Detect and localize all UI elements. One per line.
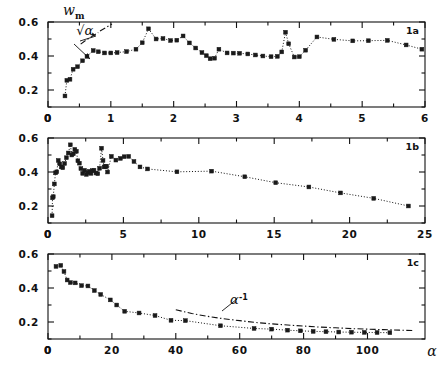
reference-guide-line — [176, 310, 412, 331]
data-point — [200, 51, 204, 55]
x-tick-label: 5 — [119, 228, 127, 240]
data-point — [175, 38, 179, 42]
data-point — [315, 35, 319, 39]
data-point — [275, 54, 279, 58]
data-point — [86, 284, 90, 288]
data-point — [194, 46, 198, 50]
origin-label: 0 — [44, 344, 52, 356]
data-point — [420, 47, 424, 51]
data-point — [367, 39, 371, 43]
data-point — [50, 214, 54, 218]
data-point — [270, 327, 274, 331]
data-point — [68, 77, 72, 81]
x-tick-label: 20 — [342, 228, 358, 240]
data-point — [127, 154, 131, 158]
data-point — [105, 164, 109, 168]
x-tick-label: 15 — [266, 228, 282, 240]
data-point — [208, 57, 212, 61]
data-point — [161, 37, 165, 41]
x-axis-title: α — [427, 343, 437, 359]
panel-1c: 0204060801000.20.40.61cα-1 — [19, 248, 425, 356]
data-point — [71, 67, 75, 71]
data-point — [337, 330, 341, 334]
data-point — [169, 318, 173, 322]
data-point — [217, 47, 221, 51]
figure-container: 01234560.20.40.61a√α005101520250.20.40.6… — [0, 0, 443, 371]
data-line — [56, 265, 390, 332]
data-point — [106, 170, 110, 174]
data-point — [154, 37, 158, 41]
data-point — [286, 328, 290, 332]
data-point — [304, 48, 308, 52]
data-point — [324, 330, 328, 334]
data-point — [274, 181, 278, 185]
data-point — [92, 289, 96, 293]
data-point — [91, 49, 95, 53]
data-point — [362, 330, 366, 334]
data-point — [187, 41, 191, 45]
y-tick-label: 0.4 — [19, 282, 39, 294]
data-point — [246, 52, 250, 56]
data-point — [109, 51, 113, 55]
data-point — [225, 51, 229, 55]
data-point — [280, 50, 284, 54]
data-point — [68, 143, 72, 147]
y-tick-label: 0.2 — [19, 316, 39, 328]
y-tick-label: 0.4 — [19, 166, 39, 178]
panel-label-1a: 1a — [406, 25, 419, 36]
panel-label-1b: 1b — [406, 141, 420, 152]
data-point — [183, 319, 187, 323]
origin-label: 0 — [44, 112, 52, 124]
annotation-label: √α — [76, 23, 93, 38]
y-tick-label: 0.6 — [19, 16, 39, 28]
origin-label: 0 — [44, 228, 52, 240]
data-point — [351, 39, 355, 43]
data-point — [169, 39, 173, 43]
multi-panel-plot: 01234560.20.40.61a√α005101520250.20.40.6… — [0, 0, 443, 371]
data-point — [307, 185, 311, 189]
data-point — [299, 329, 303, 333]
data-point — [243, 175, 247, 179]
data-point — [103, 51, 107, 55]
data-point — [109, 154, 113, 158]
data-point — [81, 59, 85, 63]
data-line — [52, 145, 408, 216]
data-point — [137, 311, 141, 315]
x-tick-label: 4 — [295, 112, 303, 124]
data-point — [79, 167, 83, 171]
y-tick-label: 0.6 — [19, 248, 39, 260]
data-point — [122, 155, 126, 159]
data-point — [77, 161, 81, 165]
x-tick-label: 5 — [358, 112, 366, 124]
data-point — [210, 169, 214, 173]
data-point — [284, 30, 288, 34]
data-point — [51, 195, 55, 199]
data-point — [269, 55, 273, 59]
data-point — [332, 37, 336, 41]
data-point — [62, 270, 66, 274]
sqrt-alpha-guide-stub — [100, 24, 112, 31]
data-point — [375, 331, 379, 335]
data-point — [118, 157, 122, 161]
data-point — [219, 324, 223, 328]
data-point — [132, 160, 136, 164]
y-tick-label: 0.2 — [19, 200, 39, 212]
data-point — [74, 149, 78, 153]
x-tick-label: 25 — [417, 228, 433, 240]
axes-frame — [48, 22, 425, 107]
data-point — [140, 41, 144, 45]
data-point — [114, 158, 118, 162]
axes-frame — [48, 138, 425, 223]
panel-1b: 05101520250.20.40.61b — [19, 132, 433, 240]
data-point — [63, 162, 67, 166]
data-point — [65, 156, 69, 160]
data-point — [100, 146, 104, 150]
x-tick-label: 2 — [170, 112, 178, 124]
data-point — [68, 281, 72, 285]
data-point — [287, 42, 291, 46]
data-point — [80, 284, 84, 288]
x-tick-label: 1 — [107, 112, 115, 124]
data-point — [407, 204, 411, 208]
x-tick-label: 40 — [168, 344, 184, 356]
data-point — [61, 166, 65, 170]
